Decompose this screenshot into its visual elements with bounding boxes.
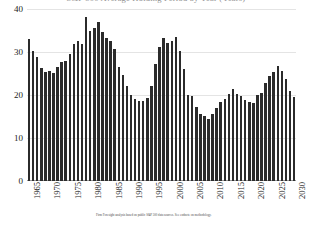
bar [52,73,55,181]
bar [232,89,235,181]
bar [126,86,129,181]
bar [134,99,137,181]
bar [281,71,284,181]
bar [48,71,51,181]
bar [142,101,145,181]
bar [97,22,100,181]
bar [85,17,88,181]
x-axis-tick-label: 2025 [278,182,287,199]
y-axis-tick-label: 10 [14,134,23,143]
x-axis-tick-label: 1995 [155,182,164,199]
x-axis-tick-label: 2030 [298,182,307,199]
page-title: S&P 500 Average Holding Period by Year (… [67,0,246,3]
bar [81,44,84,181]
bar [130,95,133,181]
y-axis-tick-label: 30 [14,48,23,57]
bar [285,79,288,181]
bar [60,62,63,181]
bar [154,64,157,181]
bar [244,100,247,181]
bar [272,72,275,181]
x-axis-tick-label: 2010 [216,182,225,199]
source-footnote: Firm Foresight analysis based on public … [96,213,306,217]
bar [264,83,267,181]
bar [171,41,174,181]
bar [199,114,202,181]
bar [252,103,255,181]
x-axis-labels: 1965197019751980198519901995200020052010… [27,182,296,214]
bar [219,102,222,181]
bar [207,119,210,181]
bar [211,114,214,181]
bar [77,41,80,181]
bar [44,72,47,181]
bar [146,98,149,181]
plot-area: 010203040 [27,9,296,181]
y-axis-tick-label: 40 [14,5,23,14]
x-axis-tick-label: 2000 [176,182,185,199]
bar [175,37,178,181]
bar [187,95,190,181]
bar [69,54,72,181]
y-axis-tick-label: 20 [14,91,23,100]
bar [36,57,39,181]
bar [56,67,59,181]
bar [179,51,182,181]
bar [224,99,227,181]
x-axis-tick-label: 1985 [115,182,124,199]
bar [28,39,31,181]
bar [101,32,104,181]
bar [32,51,35,181]
bar [93,28,96,181]
bar [89,31,92,182]
bar [277,66,280,181]
bar [248,102,251,181]
bar [268,76,271,181]
bar [40,68,43,181]
bar [240,96,243,181]
bar [203,116,206,181]
y-axis-tick-label: 0 [19,177,24,186]
bar [109,41,112,181]
x-axis-tick-label: 2020 [257,182,266,199]
bar [236,94,239,181]
chart-page: S&P 500 Average Holding Period by Year (… [0,0,312,225]
bar [166,43,169,181]
x-axis-tick-label: 1970 [53,182,62,199]
bar [122,75,125,181]
bar [183,69,186,181]
chart-title-cropped: S&P 500 Average Holding Period by Year (… [0,0,312,7]
x-axis-tick-label: 1965 [33,182,42,199]
bar [215,108,218,181]
bar [150,86,153,181]
x-axis-tick-label: 1990 [135,182,144,199]
x-axis-tick-label: 2015 [237,182,246,199]
bar [162,38,165,181]
bar [228,94,231,181]
bar [138,101,141,181]
bar [105,38,108,181]
bar [64,61,67,181]
bar [256,95,259,181]
bar [73,44,76,181]
x-axis-tick-label: 1980 [94,182,103,199]
bar [195,107,198,181]
bar [289,91,292,181]
bar [260,93,263,181]
bar-slot [292,9,296,181]
x-axis-tick-label: 1975 [74,182,83,199]
bar [113,49,116,181]
bar-series [27,9,296,181]
bar [118,67,121,181]
bar [293,97,296,181]
bar [158,47,161,181]
bar [191,96,194,181]
x-axis-tick-label: 2005 [196,182,205,199]
